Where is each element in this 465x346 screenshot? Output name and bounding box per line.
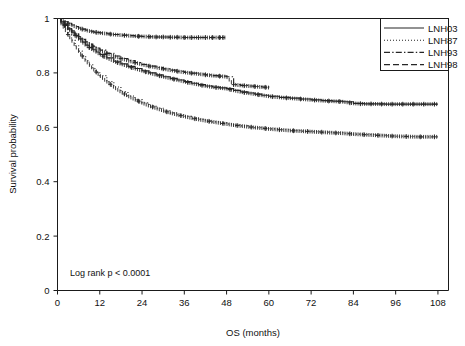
- chart-legend: LNH03LNH87LNH93LNH98: [381, 19, 458, 71]
- x-axis-label: OS (months): [226, 327, 280, 338]
- legend-label-lnh87: LNH87: [428, 35, 458, 46]
- x-tick-label: 48: [221, 297, 232, 308]
- x-tick-label: 0: [55, 297, 60, 308]
- log-rank-annotation: Log rank p < 0.0001: [70, 268, 150, 278]
- legend-label-lnh93: LNH93: [428, 47, 458, 58]
- x-tick-label: 36: [179, 297, 190, 308]
- survival-curve-figure: 00.20.40.60.81 01224364860728496108 Surv…: [0, 0, 465, 346]
- y-tick-label: 0.8: [36, 67, 49, 78]
- x-tick-label: 60: [264, 297, 275, 308]
- y-axis-label: Survival probability: [7, 114, 18, 194]
- y-tick-label: 0.6: [36, 122, 49, 133]
- legend-label-lnh03: LNH03: [428, 23, 458, 34]
- x-tick-label: 24: [137, 297, 148, 308]
- x-tick-label: 12: [94, 297, 105, 308]
- x-tick-label: 72: [306, 297, 317, 308]
- kaplan-meier-chart: 00.20.40.60.81 01224364860728496108 Surv…: [0, 0, 465, 346]
- x-tick-label: 84: [348, 297, 359, 308]
- y-tick-label: 1: [44, 13, 49, 24]
- x-tick-label: 108: [430, 297, 446, 308]
- legend-label-lnh98: LNH98: [428, 59, 458, 70]
- y-tick-label: 0.2: [36, 231, 49, 242]
- y-tick-label: 0.4: [36, 176, 49, 187]
- x-tick-label: 96: [390, 297, 401, 308]
- y-tick-label: 0: [44, 285, 49, 296]
